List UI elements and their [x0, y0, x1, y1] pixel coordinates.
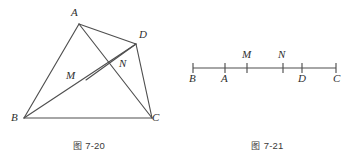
point-label-B: B [11, 112, 18, 123]
caption-number-right: 7-21 [264, 140, 284, 151]
figure-7-20: A D N M B C 图7-20 [0, 0, 178, 164]
point-label-C: C [152, 112, 159, 123]
point-label-B-line: B [189, 73, 196, 84]
point-label-M-line: M [242, 49, 251, 60]
figure-7-20-caption: 图7-20 [0, 139, 178, 152]
page-root: A D N M B C 图7-20 M N B A [0, 0, 357, 164]
point-label-M: M [66, 70, 75, 81]
segment-AD [79, 24, 136, 44]
caption-cjk-right: 图 [251, 141, 260, 151]
point-label-A-line: A [221, 73, 228, 84]
caption-number-left: 7-20 [85, 140, 105, 151]
figure-7-21: M N B A D C 图7-21 [178, 0, 357, 164]
caption-cjk-left: 图 [73, 141, 82, 151]
point-label-N: N [119, 58, 126, 69]
point-label-C-line: C [333, 73, 340, 84]
segment-MD [86, 44, 136, 80]
segment-BD [24, 44, 136, 118]
point-label-A: A [71, 7, 78, 18]
figure-7-21-caption: 图7-21 [178, 139, 357, 152]
point-label-D: D [139, 29, 147, 40]
point-label-N-line: N [278, 49, 285, 60]
point-label-D-line: D [298, 73, 306, 84]
